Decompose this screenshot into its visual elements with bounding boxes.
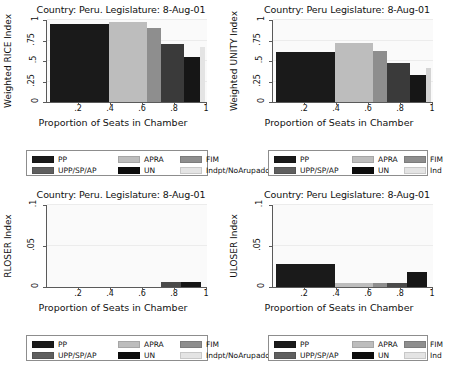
legend-swatch-icon	[118, 352, 140, 359]
y-tick-mark	[43, 102, 46, 103]
x-tick-mark	[304, 287, 305, 290]
bar-series	[47, 205, 207, 287]
legend-item-un[interactable]: UN	[118, 167, 155, 175]
y-tick-label: 0	[234, 96, 264, 105]
y-tick-label: .25	[234, 76, 264, 85]
legend-label: Ind	[430, 352, 442, 360]
legend-bottom-left: PPAPRAFIMUPP/SP/APUNIndpt/NoArupado	[26, 335, 208, 361]
legend-label: Indpt/NoArupado	[206, 352, 270, 360]
legend-swatch-icon	[180, 156, 202, 163]
legend-item-indpt-noarupado[interactable]: Indpt/NoArupado	[180, 352, 270, 360]
legend-item-indpt-noarupado[interactable]: Indpt/NoArupado	[180, 167, 270, 175]
y-tick-label: 1	[234, 14, 264, 23]
legend-item-fim[interactable]: FIM	[404, 156, 443, 164]
x-tick-mark	[110, 287, 111, 290]
x-axis-label: Proportion of Seats in Chamber	[226, 302, 452, 313]
legend-swatch-icon	[404, 341, 426, 348]
x-tick-label: .8	[388, 289, 412, 298]
bar-series	[47, 20, 207, 102]
x-tick-label: .6	[130, 104, 154, 113]
y-tick-label: 0	[8, 281, 38, 290]
legend-label: UN	[378, 167, 389, 175]
x-tick-mark	[174, 102, 175, 105]
bar-fim	[373, 283, 387, 287]
legend-item-pp[interactable]: PP	[274, 341, 309, 349]
x-tick-mark	[142, 102, 143, 105]
bar-apra	[335, 43, 373, 102]
x-tick-label: .6	[356, 104, 380, 113]
legend-swatch-icon	[352, 341, 374, 348]
panel-weighted-rice: Country: Peru. Legislature: 8-Aug-01 Wei…	[0, 0, 226, 150]
legend-item-upp-sp-ap[interactable]: UPP/SP/AP	[274, 167, 339, 175]
y-tick-label: .25	[8, 76, 38, 85]
bar-pp	[276, 52, 334, 102]
legend-label: UPP/SP/AP	[300, 352, 339, 360]
legend-label: UPP/SP/AP	[58, 352, 97, 360]
legend-item-pp[interactable]: PP	[32, 156, 67, 164]
x-tick-mark	[432, 287, 433, 290]
legend-item-upp-sp-ap[interactable]: UPP/SP/AP	[32, 352, 97, 360]
legend-row: UPP/SP/APUNInd	[274, 165, 422, 176]
legend-item-un[interactable]: UN	[118, 352, 155, 360]
y-tick-mark	[269, 20, 272, 21]
legend-swatch-icon	[274, 352, 296, 359]
x-tick-mark	[400, 287, 401, 290]
legend-item-apra[interactable]: APRA	[118, 156, 164, 164]
x-tick-mark	[336, 287, 337, 290]
y-tick-label: .5	[234, 55, 264, 64]
legend-item-pp[interactable]: PP	[274, 156, 309, 164]
x-tick-label: .8	[388, 104, 412, 113]
legend-item-apra[interactable]: APRA	[118, 341, 164, 349]
legend-item-apra[interactable]: APRA	[352, 341, 398, 349]
legend-item-apra[interactable]: APRA	[352, 156, 398, 164]
x-tick-label: .4	[324, 104, 348, 113]
panel-uloser: Country: Peru Legislature: 8-Aug-01 ULOS…	[226, 185, 452, 335]
bar-pp2	[410, 75, 426, 102]
legend-item-upp-sp-ap[interactable]: UPP/SP/AP	[274, 352, 339, 360]
legend-swatch-icon	[352, 167, 374, 174]
legend-swatch-icon	[404, 156, 426, 163]
legend-item-un[interactable]: UN	[352, 167, 389, 175]
legend-row: UPP/SP/APUNIndpt/NoArupado	[32, 165, 202, 176]
legend-swatch-icon	[352, 352, 374, 359]
legend-item-fim[interactable]: FIM	[180, 341, 219, 349]
x-tick-mark	[304, 102, 305, 105]
x-axis-label: Proportion of Seats in Chamber	[0, 302, 226, 313]
legend-label: UN	[378, 352, 389, 360]
y-tick-label: .05	[8, 240, 38, 249]
legend-item-fim[interactable]: FIM	[404, 341, 443, 349]
y-tick-mark	[269, 61, 272, 62]
legend-label: UPP/SP/AP	[58, 167, 97, 175]
x-tick-label: .6	[130, 289, 154, 298]
legend-label: UPP/SP/AP	[300, 167, 339, 175]
x-tick-label: .2	[66, 289, 90, 298]
legend-label: PP	[58, 156, 67, 164]
x-tick-label: .8	[162, 104, 186, 113]
legend-label: FIM	[430, 341, 443, 349]
bar-pp2	[184, 57, 200, 103]
bar-pp2	[181, 282, 201, 287]
legend-item-pp[interactable]: PP	[32, 341, 67, 349]
x-tick-mark	[78, 102, 79, 105]
y-tick-label: .05	[234, 240, 264, 249]
legend-row: PPAPRAFIM	[32, 339, 202, 350]
legend-item-ind[interactable]: Ind	[404, 352, 442, 360]
legend-item-fim[interactable]: FIM	[180, 156, 219, 164]
y-tick-label: 0	[8, 96, 38, 105]
legend-item-upp-sp-ap[interactable]: UPP/SP/AP	[32, 167, 97, 175]
legend-label: FIM	[206, 341, 219, 349]
legend-item-ind[interactable]: Ind	[404, 167, 442, 175]
x-tick-label: .2	[292, 104, 316, 113]
y-tick-mark	[269, 287, 272, 288]
legend-item-un[interactable]: UN	[352, 352, 389, 360]
x-tick-label: 1	[194, 289, 218, 298]
panel-weighted-unity: Country: Peru Legislature: 8-Aug-01 Weig…	[226, 0, 452, 150]
legend-swatch-icon	[118, 341, 140, 348]
legend-swatch-icon	[274, 156, 296, 163]
x-tick-mark	[78, 287, 79, 290]
legend-swatch-icon	[180, 341, 202, 348]
legend-label: Indpt/NoArupado	[206, 167, 270, 175]
x-tick-mark	[400, 102, 401, 105]
legend-swatch-icon	[118, 167, 140, 174]
legend-label: FIM	[206, 156, 219, 164]
